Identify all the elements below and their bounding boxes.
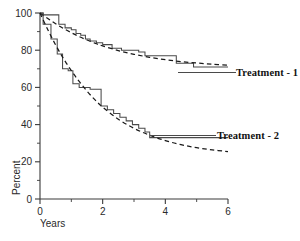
y-tick-label: 100 xyxy=(15,8,32,19)
series-path-treatment-1 xyxy=(40,13,228,67)
y-tick-label: 60 xyxy=(21,82,33,93)
y-tick-label: 20 xyxy=(21,156,33,167)
chart-canvas: 020406080100 0246 Treatment - 1 Treatmen… xyxy=(0,0,300,241)
data-series-group xyxy=(40,13,228,152)
series-legend-group xyxy=(150,73,236,136)
x-axis-tick-labels: 0246 xyxy=(37,206,231,217)
x-tick-label: 2 xyxy=(100,206,106,217)
y-tick-label: 40 xyxy=(21,119,33,130)
x-tick-label: 6 xyxy=(225,206,231,217)
series-path-treatment-1-fitted xyxy=(40,13,228,65)
series-path-treatment-2-fitted xyxy=(40,13,228,152)
axes xyxy=(40,13,228,199)
y-tick-label: 80 xyxy=(21,45,33,56)
x-axis-title: Years xyxy=(40,218,65,229)
survival-curve-figure: 020406080100 0246 Treatment - 1 Treatmen… xyxy=(0,0,300,241)
y-axis-title: Percent xyxy=(11,160,22,195)
x-tick-label: 0 xyxy=(37,206,43,217)
series-label-treatment-1: Treatment - 1 xyxy=(236,67,298,78)
y-tick-label: 0 xyxy=(26,194,32,205)
series-label-treatment-2: Treatment - 2 xyxy=(217,130,279,141)
x-tick-label: 4 xyxy=(163,206,169,217)
